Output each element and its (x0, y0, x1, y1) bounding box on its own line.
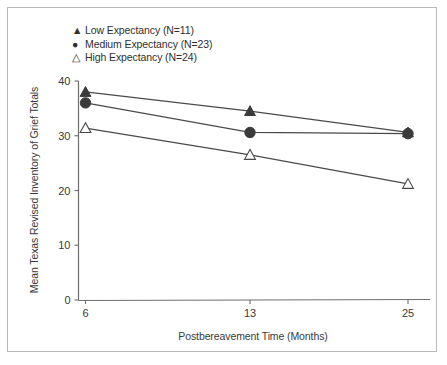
open-triangle-marker (80, 123, 91, 133)
y-tick-label: 20 (58, 185, 70, 197)
data-series (80, 98, 413, 139)
x-tick-label: 6 (82, 307, 88, 319)
figure-canvas: 010203040 61325 Postbereavement Time (Mo… (0, 0, 447, 365)
y-axis-title: Mean Texas Revised Inventory of Grief To… (28, 87, 40, 293)
y-tick-label: 10 (58, 239, 70, 251)
filled-triangle-marker (80, 87, 91, 97)
open-triangle-icon: △ (72, 51, 85, 65)
y-tick-label: 30 (58, 130, 70, 142)
filled-circle-marker (80, 98, 90, 108)
x-axis-tick-labels: 61325 (82, 307, 414, 319)
legend-item-medium-expectancy: ● Medium Expectancy (N=23) (72, 38, 212, 52)
axes: 010203040 61325 (58, 75, 430, 319)
filled-circle-marker (245, 127, 255, 137)
data-series-group (80, 87, 413, 189)
x-axis-title: Postbereavement Time (Months) (178, 330, 327, 342)
legend-item-low-expectancy: ▲ Low Expectancy (N=11) (72, 24, 212, 38)
legend: ▲ Low Expectancy (N=11) ● Medium Expecta… (72, 24, 212, 65)
filled-circle-icon: ● (72, 38, 85, 52)
legend-label-medium-expectancy: Medium Expectancy (N=23) (85, 38, 212, 52)
x-axis-line (79, 300, 431, 301)
x-tick-label: 13 (244, 307, 256, 319)
legend-label-high-expectancy: High Expectancy (N=24) (85, 51, 197, 65)
y-tick-label: 0 (64, 294, 70, 306)
y-tick-label: 40 (58, 75, 70, 87)
line-chart: 010203040 61325 Postbereavement Time (Mo… (0, 0, 447, 365)
y-axis-tick-labels: 010203040 (58, 75, 70, 306)
filled-circle-marker (403, 128, 413, 138)
legend-label-low-expectancy: Low Expectancy (N=11) (85, 24, 194, 38)
legend-item-high-expectancy: △ High Expectancy (N=24) (72, 51, 212, 65)
x-tick-label: 25 (402, 307, 414, 319)
filled-triangle-icon: ▲ (72, 24, 85, 38)
